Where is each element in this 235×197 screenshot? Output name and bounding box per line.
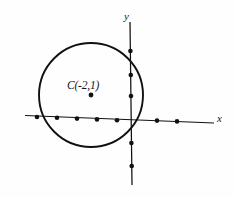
point-marker (35, 115, 40, 120)
circle-center-label: C(-2,1) (67, 80, 99, 92)
point-marker (75, 116, 80, 121)
point-marker (129, 73, 134, 78)
y-axis-line (130, 22, 132, 185)
point-marker (95, 117, 100, 122)
point-marker (129, 94, 134, 99)
x-axis-line (25, 116, 214, 124)
point-marker (128, 49, 133, 54)
point-marker (129, 141, 134, 146)
y-axis-label: y (124, 11, 129, 22)
circle-center-dot (89, 93, 94, 98)
geometry-figure: y x C(-2,1) (0, 0, 235, 197)
x-axis-label: x (217, 113, 222, 124)
point-marker (55, 116, 60, 121)
figure-canvas (0, 0, 235, 197)
point-marker (155, 118, 160, 123)
point-marker (175, 119, 180, 124)
point-marker (129, 164, 134, 169)
point-marker (115, 118, 120, 123)
